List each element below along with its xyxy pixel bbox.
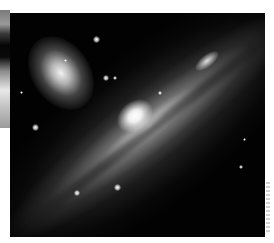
star (64, 59, 67, 62)
star (114, 184, 121, 191)
adjacent-image-strip (0, 10, 10, 128)
photo-credit-watermark (266, 182, 270, 232)
star (103, 75, 109, 81)
star (239, 165, 243, 169)
star (243, 138, 246, 141)
star (74, 190, 80, 196)
star (113, 76, 117, 80)
star (20, 91, 23, 94)
star (158, 91, 162, 95)
galaxy-photo (10, 13, 265, 237)
star (93, 36, 100, 43)
star (32, 124, 39, 131)
